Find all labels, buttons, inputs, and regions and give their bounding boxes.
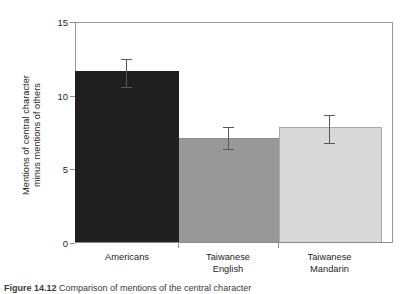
figure-caption-number: Figure 14.12: [4, 283, 57, 293]
y-tick-label-5: 5: [28, 165, 68, 175]
bar-taiwanese-english: [179, 138, 279, 242]
y-tick-label-5-wrap: 5: [22, 169, 68, 179]
error-bar-cap-top-americans: [121, 59, 132, 60]
error-bar-cap-top-taiwanese-english: [223, 127, 234, 128]
bar-americans: [75, 71, 179, 242]
x-axis-label-taiwanese-english-line-1: Taiwanese: [178, 252, 278, 264]
error-bar-cap-bottom-americans: [121, 87, 132, 88]
figure-caption: Figure 14.12 Comparison of mentions of t…: [4, 283, 408, 294]
error-bar-cap-bottom-taiwanese-mandarin: [324, 143, 335, 144]
error-bar-taiwanese-mandarin: [329, 115, 330, 143]
error-bar-americans: [126, 59, 127, 87]
x-tick-mark-1: [178, 243, 179, 248]
y-tick-label-15-wrap: 15: [22, 22, 68, 32]
x-axis-label-americans-line-1: Americans: [75, 252, 179, 264]
x-axis-label-americans: Americans: [75, 252, 179, 264]
x-axis-label-taiwanese-mandarin: Taiwanese Mandarin: [278, 252, 381, 275]
x-axis-label-taiwanese-english: Taiwanese English: [178, 252, 278, 275]
x-tick-mark-2: [278, 243, 279, 248]
plot-area: [75, 22, 393, 243]
y-tick-label-10: 10: [28, 91, 68, 101]
error-bar-cap-bottom-taiwanese-english: [223, 149, 234, 150]
y-tick-mark-0: [70, 243, 75, 244]
y-axis-title: Mentions of central character minus ment…: [17, 20, 47, 250]
figure-caption-text: Comparison of mentions of the central ch…: [59, 283, 251, 293]
bar-taiwanese-mandarin: [279, 127, 382, 242]
x-axis-label-taiwanese-english-line-2: English: [178, 264, 278, 276]
y-tick-label-0-wrap: 0: [22, 243, 68, 253]
y-tick-label-0: 0: [28, 239, 68, 249]
error-bar-taiwanese-english: [228, 127, 229, 149]
x-axis-label-taiwanese-mandarin-line-1: Taiwanese: [278, 252, 381, 264]
x-axis-label-taiwanese-mandarin-line-2: Mandarin: [278, 264, 381, 276]
y-tick-label-10-wrap: 10: [22, 96, 68, 106]
y-tick-label-15: 15: [28, 18, 68, 28]
error-bar-cap-top-taiwanese-mandarin: [324, 115, 335, 116]
